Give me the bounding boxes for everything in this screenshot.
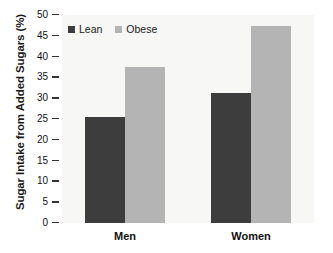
bar-men-lean: [85, 117, 125, 223]
legend-item-lean[interactable]: Lean: [68, 24, 102, 34]
y-axis-tick-label: 50: [37, 9, 48, 21]
bar-men-obese: [125, 67, 165, 223]
y-axis-tick-label: 40: [37, 51, 48, 63]
y-axis-tick: 25: [0, 113, 60, 125]
legend-swatch-lean: [68, 26, 75, 33]
y-axis-tick-mark: [52, 14, 59, 15]
legend-swatch-obese: [115, 26, 122, 33]
y-axis-tick-mark: [52, 139, 59, 140]
bar-women-obese: [251, 26, 291, 223]
y-axis-tick-label: 25: [37, 113, 48, 125]
plot-area: [62, 15, 314, 223]
legend: LeanObese: [68, 24, 157, 34]
y-axis-tick: 50: [0, 9, 60, 21]
x-axis-label-men: Men: [75, 230, 175, 242]
y-axis-tick-label: 10: [37, 175, 48, 187]
y-axis-tick-mark: [52, 35, 59, 36]
y-axis-tick-label: 45: [37, 30, 48, 42]
y-axis-tick: 0: [0, 217, 60, 229]
y-axis-tick-label: 20: [37, 134, 48, 146]
y-axis-tick: 5: [0, 196, 60, 208]
y-axis-tick-label: 30: [37, 92, 48, 104]
y-axis-tick-label: 35: [37, 71, 48, 83]
bar-women-lean: [211, 93, 251, 223]
y-axis-tick-label: 15: [37, 155, 48, 167]
bar-chart: Sugar Intake from Added Sugars (%) 05101…: [0, 0, 333, 253]
y-axis-tick: 15: [0, 155, 60, 167]
y-axis-tick: 45: [0, 30, 60, 42]
y-axis-tick-mark: [52, 56, 59, 57]
y-axis-tick: 20: [0, 134, 60, 146]
y-axis-tick-mark: [52, 118, 59, 119]
y-axis-tick-mark: [52, 97, 59, 98]
y-axis-tick: 35: [0, 71, 60, 83]
x-axis-label-women: Women: [201, 230, 301, 242]
y-axis-tick-mark: [52, 160, 59, 161]
y-axis-tick-mark: [52, 201, 59, 202]
y-axis-tick-mark: [52, 222, 59, 223]
y-axis-tick: 10: [0, 175, 60, 187]
y-axis-tick: 30: [0, 92, 60, 104]
legend-item-obese[interactable]: Obese: [115, 24, 157, 34]
y-axis-tick-label: 5: [42, 196, 48, 208]
y-axis-tick-label: 0: [42, 217, 48, 229]
legend-label: Lean: [79, 24, 102, 34]
y-axis-tick-mark: [52, 76, 59, 77]
y-axis-tick-mark: [52, 180, 59, 181]
legend-label: Obese: [126, 24, 157, 34]
y-axis-tick: 40: [0, 51, 60, 63]
